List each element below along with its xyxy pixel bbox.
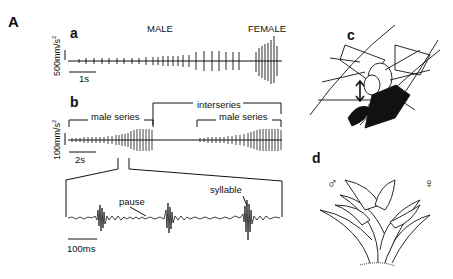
bracket-interseries-left [153, 103, 193, 125]
inset-trace [68, 200, 280, 240]
syllable-pointer [243, 196, 247, 206]
bromeliad-plant-drawing [320, 180, 430, 266]
inset-zoom-line-right [129, 158, 282, 217]
inset-zoom-line-left [66, 158, 118, 217]
double-arrow-icon [356, 81, 364, 101]
bracket-male-series-2-left [197, 120, 216, 127]
bracket-male-series-1-left [69, 120, 88, 127]
figure-graphics [0, 0, 453, 279]
panel-a-trace-spikes [79, 36, 277, 84]
pause-pointer [130, 207, 146, 216]
bracket-male-series-1-right [144, 120, 153, 127]
spider-on-leaf-drawing [310, 25, 440, 128]
bracket-male-series-2-right [272, 120, 281, 127]
bracket-interseries-right [243, 103, 281, 114]
